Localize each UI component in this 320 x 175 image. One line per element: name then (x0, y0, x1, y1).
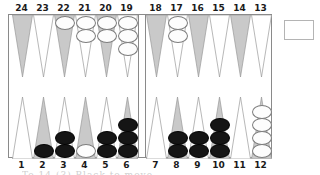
checker-white-point-4[interactable] (76, 144, 96, 158)
checker-white-point-19[interactable] (118, 16, 138, 30)
point-number-20: 20 (95, 2, 117, 14)
checker-white-point-20[interactable] (97, 16, 117, 30)
doubling-cube-box[interactable] (284, 20, 314, 40)
point-18[interactable] (146, 15, 167, 77)
point-1[interactable] (12, 97, 33, 159)
checker-black-point-9[interactable] (189, 144, 209, 158)
checker-black-point-5[interactable] (97, 144, 117, 158)
checker-black-point-6[interactable] (118, 118, 138, 132)
point-number-16: 16 (187, 2, 209, 14)
point-number-23: 23 (32, 2, 54, 14)
checker-white-point-21[interactable] (76, 16, 96, 30)
checker-white-point-20[interactable] (97, 29, 117, 43)
checker-white-point-21[interactable] (76, 29, 96, 43)
checker-black-point-5[interactable] (97, 131, 117, 145)
board-playing-field (8, 14, 272, 158)
point-number-22: 22 (53, 2, 75, 14)
checker-black-point-10[interactable] (210, 131, 230, 145)
point-24[interactable] (12, 15, 33, 77)
point-number-14: 14 (229, 2, 251, 14)
point-number-24: 24 (11, 2, 33, 14)
checker-white-point-17[interactable] (168, 29, 188, 43)
checker-white-point-19[interactable] (118, 29, 138, 43)
point-15[interactable] (209, 15, 230, 77)
point-number-21: 21 (74, 2, 96, 14)
point-11[interactable] (230, 97, 251, 159)
point-number-19: 19 (116, 2, 138, 14)
checker-white-point-22[interactable] (55, 16, 75, 30)
checker-black-point-3[interactable] (55, 131, 75, 145)
point-number-17: 17 (166, 2, 188, 14)
point-number-15: 15 (208, 2, 230, 14)
checker-black-point-8[interactable] (168, 131, 188, 145)
checker-black-point-9[interactable] (189, 131, 209, 145)
checker-white-point-12[interactable] (252, 105, 272, 119)
top-point-number-row: 242322212019181716151413 (0, 2, 320, 14)
checker-white-point-12[interactable] (252, 144, 272, 158)
checker-black-point-2[interactable] (34, 144, 54, 158)
checker-black-point-8[interactable] (168, 144, 188, 158)
point-13[interactable] (251, 15, 272, 77)
checker-white-point-17[interactable] (168, 16, 188, 30)
point-23[interactable] (33, 15, 54, 77)
checker-black-point-10[interactable] (210, 144, 230, 158)
checker-black-point-10[interactable] (210, 118, 230, 132)
checker-black-point-6[interactable] (118, 144, 138, 158)
backgammon-board: 242322212019181716151413 123456789101112… (0, 0, 320, 175)
checker-white-point-19[interactable] (118, 42, 138, 56)
checker-black-point-3[interactable] (55, 144, 75, 158)
checker-black-point-6[interactable] (118, 131, 138, 145)
figure-caption: To 14 (3) Black to move (22, 170, 302, 175)
point-number-18: 18 (145, 2, 167, 14)
point-14[interactable] (230, 15, 251, 77)
point-number-13: 13 (250, 2, 272, 14)
board-bar (138, 15, 146, 157)
point-16[interactable] (188, 15, 209, 77)
point-7[interactable] (146, 97, 167, 159)
checker-white-point-12[interactable] (252, 118, 272, 132)
checker-white-point-12[interactable] (252, 131, 272, 145)
